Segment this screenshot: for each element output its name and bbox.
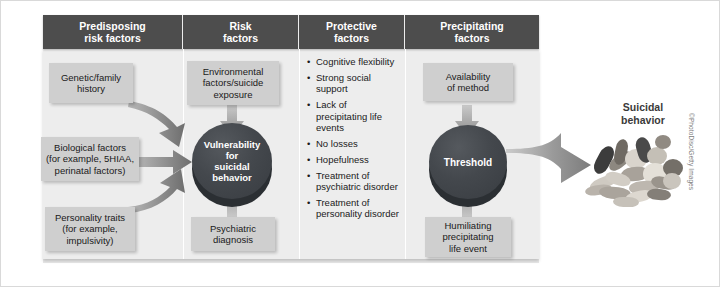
box-line: Availability bbox=[446, 71, 491, 83]
header-line-1: Protective bbox=[326, 20, 377, 32]
outcome-line-2: behavior bbox=[595, 114, 691, 127]
box-availability-of-method: Availability of method bbox=[423, 63, 513, 101]
box-line: history bbox=[61, 83, 121, 95]
box-line: Personality traits bbox=[55, 212, 125, 224]
header-line-1: Predisposing bbox=[79, 20, 146, 32]
box-personality-traits: Personality traits (for example, impulsi… bbox=[45, 207, 135, 251]
header-line-1: Precipitating bbox=[440, 20, 504, 32]
box-line: impulsivity) bbox=[55, 235, 125, 247]
list-item: Treatment of personality disorder bbox=[316, 197, 399, 220]
disc-line: suicidal bbox=[204, 161, 261, 172]
list-item: Hopefulness bbox=[316, 154, 399, 165]
header-line-2: factors bbox=[440, 32, 504, 44]
box-line: Biological factors bbox=[46, 142, 134, 154]
box-line: (for example, 5HIAA, bbox=[46, 153, 134, 165]
list-item: Cognitive flexibility bbox=[316, 56, 399, 67]
box-psychiatric-diagnosis: Psychiatric diagnosis bbox=[191, 217, 275, 251]
box-line: Genetic/family bbox=[61, 72, 121, 84]
box-line: life event bbox=[442, 243, 493, 255]
disc-face: Vulnerability for suicidal behavior bbox=[192, 123, 272, 199]
box-line: exposure bbox=[203, 89, 264, 101]
header-line-1: Risk bbox=[223, 20, 258, 32]
box-genetic-family-history: Genetic/family history bbox=[49, 63, 133, 103]
box-line: (for example, bbox=[55, 223, 125, 235]
box-humiliating-life-event: Humiliating precipitating life event bbox=[425, 217, 511, 257]
box-line: perinatal factors) bbox=[46, 165, 134, 177]
column-header-predisposing: Predisposing risk factors bbox=[43, 15, 183, 49]
column-divider-2 bbox=[299, 49, 300, 259]
outcome-label: Suicidal behavior bbox=[595, 101, 691, 126]
outcome-line-1: Suicidal bbox=[595, 101, 691, 114]
header-line-2: factors bbox=[326, 32, 377, 44]
disc-vulnerability: Vulnerability for suicidal behavior bbox=[192, 123, 272, 199]
disc-line: Vulnerability bbox=[204, 139, 261, 150]
box-biological-factors: Biological factors (for example, 5HIAA, … bbox=[41, 137, 139, 181]
column-header-risk: Risk factors bbox=[183, 15, 299, 49]
box-line: diagnosis bbox=[210, 234, 256, 246]
box-line: of method bbox=[446, 82, 491, 94]
list-item: Lack of precipitating life events bbox=[316, 99, 399, 133]
pills-photo bbox=[585, 133, 697, 219]
column-divider-1 bbox=[183, 49, 184, 259]
box-line: Environmental bbox=[203, 66, 264, 78]
header-line-2: factors bbox=[223, 32, 258, 44]
box-line: Humiliating bbox=[442, 220, 493, 232]
protective-factors-list: Cognitive flexibility Strong social supp… bbox=[307, 56, 399, 224]
disc-face: Threshold bbox=[429, 125, 507, 199]
list-item: Strong social support bbox=[316, 72, 399, 95]
column-header-protective: Protective factors bbox=[299, 15, 405, 49]
column-header-bar: Predisposing risk factors Risk factors P… bbox=[43, 15, 539, 49]
column-divider-3 bbox=[405, 49, 406, 259]
box-line: Psychiatric bbox=[210, 223, 256, 235]
image-credit: ©PhotoDisc/Getty Images bbox=[688, 113, 695, 213]
box-line: factors/suicide bbox=[203, 77, 264, 89]
list-item: Treatment of psychiatric disorder bbox=[316, 170, 399, 193]
figure-caption bbox=[61, 276, 461, 286]
column-header-precipitating: Precipitating factors bbox=[405, 15, 539, 49]
disc-line: for bbox=[204, 150, 261, 161]
figure-frame: Predisposing risk factors Risk factors P… bbox=[0, 0, 720, 287]
disc-line: behavior bbox=[204, 172, 261, 183]
box-line: precipitating bbox=[442, 231, 493, 243]
disc-line: Threshold bbox=[444, 157, 492, 168]
list-item: No losses bbox=[316, 138, 399, 149]
disc-threshold: Threshold bbox=[429, 125, 507, 199]
header-line-2: risk factors bbox=[79, 32, 146, 44]
box-environmental-factors: Environmental factors/suicide exposure bbox=[187, 61, 279, 105]
